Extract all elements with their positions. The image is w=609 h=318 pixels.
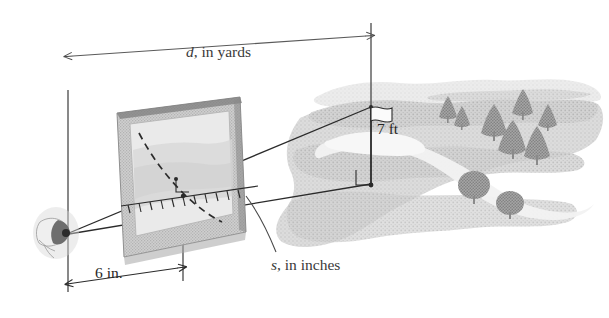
rangefinder-sighting-diagram: d, in yards 7 ft 6 in. s, in inches	[0, 0, 609, 318]
eye-pupil	[62, 229, 70, 237]
label-height-7ft: 7 ft	[377, 121, 398, 137]
scale-top-point	[174, 177, 178, 181]
label-distance-rest: , in	[194, 43, 218, 60]
label-distance-d: d, in yards	[186, 44, 251, 60]
landscape-background	[276, 79, 603, 247]
label-scale-unit: inches	[301, 256, 341, 273]
label-distance-unit: yards	[217, 43, 251, 60]
scale-bottom-point	[181, 194, 185, 198]
eye-icon	[33, 207, 79, 259]
framed-scale	[117, 97, 246, 265]
label-scale-rest: , in	[277, 256, 301, 273]
six-inch-dimension-line	[74, 268, 178, 283]
label-scale-reading-s: s, in inches	[271, 257, 340, 273]
label-distance-symbol: d	[186, 43, 194, 60]
label-eye-to-scale-6in: 6 in.	[95, 265, 123, 281]
